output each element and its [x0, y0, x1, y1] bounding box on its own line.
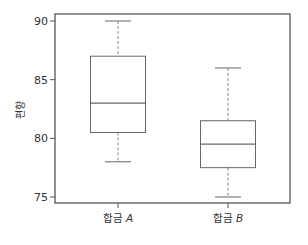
boxes: [91, 21, 256, 197]
y-tick-label: 85: [34, 74, 48, 87]
x-axis: 합금 A합금 B: [103, 203, 244, 224]
box-a: [91, 21, 146, 162]
y-axis: 75808590: [34, 15, 55, 204]
y-axis-title: 편향: [15, 101, 26, 119]
x-tick-label: 합금 A: [103, 212, 134, 224]
y-tick-label: 80: [34, 132, 48, 145]
iqr-box: [91, 56, 146, 132]
y-tick-label: 75: [34, 191, 48, 204]
x-tick-label: 합금 B: [213, 212, 244, 224]
box-b: [201, 68, 256, 197]
boxplot-chart: 75808590 합금 A합금 B 편향: [0, 0, 308, 245]
y-tick-label: 90: [34, 15, 48, 28]
